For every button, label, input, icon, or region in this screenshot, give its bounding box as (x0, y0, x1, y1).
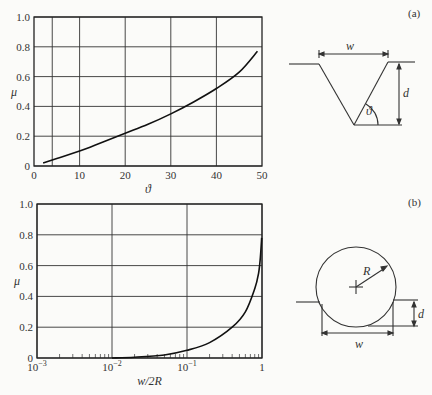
diagram-a-depth-label: d (403, 86, 410, 100)
x-tick-label: 10−1 (177, 359, 197, 373)
diagram-b-depth-label: d (418, 307, 425, 321)
x-tick-label: 20 (120, 169, 132, 181)
y-tick-label: 0.2 (19, 321, 33, 333)
x-tick-label: 40 (211, 169, 223, 181)
y-axis-label: μ (10, 85, 17, 99)
y-tick-label: 0.8 (16, 41, 30, 53)
y-tick-label: 0.6 (16, 71, 30, 83)
x-axis-label: ϑ (145, 182, 152, 196)
y-tick-label: 1.0 (16, 11, 30, 23)
x-tick-label: 10−3 (27, 359, 47, 373)
panel-a-label: (a) (408, 7, 421, 20)
figure-canvas: 00.20.40.60.81.001020304050μϑ 00.20.40.6… (0, 0, 432, 395)
y-tick-label: 0.2 (16, 130, 30, 142)
x-tick-label: 1 (259, 361, 265, 373)
data-curve (43, 51, 257, 163)
x-tick-label: 50 (257, 169, 269, 181)
x-tick-label: 10 (74, 169, 86, 181)
chart-b: 00.20.40.60.81.010−310−210−11μw/2R (13, 198, 265, 388)
x-tick-label: 10−2 (102, 359, 122, 373)
x-axis-label: w/2R (137, 374, 162, 388)
diagram-b-radius-label: R (362, 264, 371, 278)
diagram-b-width-label: w (355, 337, 363, 351)
y-tick-label: 0.8 (19, 229, 33, 241)
y-tick-label: 0.4 (19, 290, 33, 302)
chart-a: 00.20.40.60.81.001020304050μϑ (10, 11, 268, 196)
y-tick-label: 0.6 (19, 260, 33, 272)
y-tick-label: 0.4 (16, 100, 30, 112)
circular-groove-diagram (296, 247, 418, 336)
y-tick-label: 0 (25, 160, 31, 172)
diagram-a-width-label: w (346, 39, 354, 53)
x-tick-label: 30 (165, 169, 177, 181)
diagram-a-angle-label: ϑ (366, 104, 373, 118)
y-tick-label: 1.0 (19, 198, 33, 210)
y-axis-label: μ (13, 274, 20, 288)
plot-frame (37, 204, 262, 358)
plot-frame (34, 17, 262, 166)
x-tick-label: 0 (31, 169, 37, 181)
panel-b-label: (b) (408, 196, 421, 209)
v-groove-diagram (289, 50, 415, 125)
